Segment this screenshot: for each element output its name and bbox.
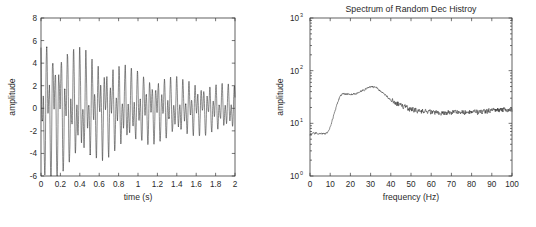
y-tick-label: -4: [30, 149, 38, 158]
x-tick-label: 0.8: [113, 180, 125, 189]
x-tick-label: 90: [487, 180, 497, 189]
plot-frame: [310, 18, 512, 176]
y-tick-label: 4: [32, 59, 37, 68]
y-tick-label: 8: [32, 14, 37, 23]
y-tick-label: 100: [290, 170, 303, 181]
y-tick-label: 0: [32, 104, 37, 113]
plot-title: Spectrum of Random Dec Histroy: [345, 4, 477, 14]
x-tick-label: 100: [505, 180, 519, 189]
x-tick-label: 0: [39, 180, 44, 189]
spectrum-series: [310, 86, 512, 135]
x-tick-label: 30: [366, 180, 376, 189]
svg-text:0: 0: [300, 170, 303, 176]
svg-text:10: 10: [290, 119, 300, 128]
x-tick-label: 1: [136, 180, 141, 189]
x-tick-label: 0: [308, 180, 313, 189]
y-tick-label: 103: [290, 12, 303, 23]
x-tick-label: 0.6: [94, 180, 106, 189]
x-tick-label: 1.4: [171, 180, 183, 189]
x-tick-label: 40: [386, 180, 396, 189]
x-tick-label: 80: [467, 180, 477, 189]
svg-text:1: 1: [300, 117, 303, 123]
y-tick-label: 6: [32, 37, 37, 46]
svg-text:3: 3: [300, 12, 303, 18]
time-history-figure: 00.20.40.60.811.21.41.61.82-6-4-202468ti…: [0, 0, 268, 227]
x-tick-label: 10: [326, 180, 336, 189]
svg-text:10: 10: [290, 14, 300, 23]
x-tick-label: 70: [447, 180, 457, 189]
svg-text:10: 10: [290, 172, 300, 181]
y-tick-label: 101: [290, 117, 303, 128]
x-tick-label: 1.2: [152, 180, 164, 189]
x-tick-label: 50: [406, 180, 416, 189]
x-tick-label: 2: [233, 180, 238, 189]
x-axis-title: frequency (Hz): [383, 192, 439, 202]
spectrum-figure: Spectrum of Random Dec Histroy0102030405…: [268, 0, 536, 227]
x-tick-label: 1.6: [191, 180, 203, 189]
y-tick-label: 2: [32, 82, 37, 91]
y-tick-label: -6: [30, 172, 38, 181]
y-axis-title: amplitude: [7, 78, 17, 115]
figure-page: 00.20.40.60.811.21.41.61.82-6-4-202468ti…: [0, 0, 536, 227]
x-tick-label: 0.2: [55, 180, 67, 189]
x-tick-label: 1.8: [210, 180, 222, 189]
x-tick-label: 0.4: [74, 180, 86, 189]
y-tick-label: 102: [290, 64, 303, 75]
time-history-plot: 00.20.40.60.811.21.41.61.82-6-4-202468ti…: [0, 0, 268, 227]
x-axis-title: time (s): [124, 192, 153, 202]
x-tick-label: 60: [427, 180, 437, 189]
svg-text:2: 2: [300, 64, 303, 70]
spectrum-plot: Spectrum of Random Dec Histroy0102030405…: [268, 0, 536, 227]
time-history-series: [41, 47, 235, 176]
x-tick-label: 20: [346, 180, 356, 189]
y-tick-label: -2: [30, 127, 38, 136]
y-axis-title: amplitude: [275, 78, 285, 115]
svg-text:10: 10: [290, 67, 300, 76]
